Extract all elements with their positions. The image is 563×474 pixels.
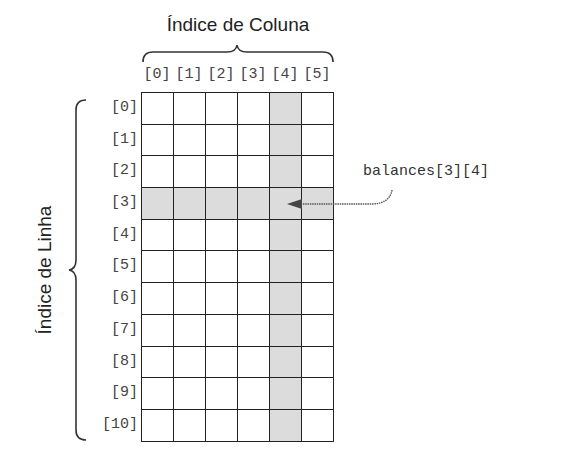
pointer-arrow-icon	[300, 190, 392, 204]
arrowhead-icon	[287, 199, 302, 209]
row-brace-icon	[69, 100, 86, 440]
braces-and-arrow	[0, 0, 563, 474]
column-brace-icon	[143, 45, 333, 62]
